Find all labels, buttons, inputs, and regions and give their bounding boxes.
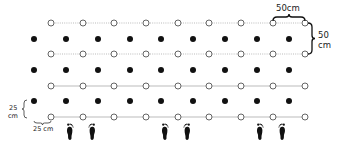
- open-circle-marker: [143, 20, 149, 26]
- open-circle-marker: [206, 20, 212, 26]
- open-circle-marker: [206, 114, 212, 120]
- filled-circle-marker: [254, 98, 260, 104]
- open-circle-marker: [175, 114, 181, 120]
- filled-circle-marker: [222, 36, 228, 42]
- open-circle-marker: [48, 20, 54, 26]
- filled-circle-marker: [31, 36, 37, 42]
- filled-circle-marker: [95, 98, 101, 104]
- top-spacing-label: 50cm: [276, 4, 300, 13]
- filled-circle-marker: [222, 67, 228, 73]
- filled-circle-marker: [286, 98, 292, 104]
- open-circle-marker: [111, 51, 117, 57]
- right-footprint-icon: [183, 123, 190, 140]
- left-footprint-icon: [257, 123, 264, 140]
- filled-circle-marker: [63, 67, 69, 73]
- open-circle-marker: [238, 20, 244, 26]
- filled-circle-marker: [222, 98, 228, 104]
- bottom-spacing-label: 25 cm: [33, 125, 53, 134]
- filled-circle-marker: [127, 67, 133, 73]
- filled-circle-marker: [31, 67, 37, 73]
- open-circle-marker: [80, 114, 86, 120]
- open-circle-marker: [238, 51, 244, 57]
- open-circle-marker: [143, 51, 149, 57]
- filled-circle-marker: [254, 36, 260, 42]
- filled-circle-marker: [95, 67, 101, 73]
- filled-circle-marker: [95, 36, 101, 42]
- open-circle-marker: [238, 83, 244, 89]
- filled-circle-marker: [158, 98, 164, 104]
- left-spacing-label-unit: cm: [8, 112, 18, 121]
- right-spacing-label-value: 50: [318, 31, 329, 40]
- open-circle-marker: [270, 83, 276, 89]
- open-circle-marker: [48, 114, 54, 120]
- filled-circle-marker: [63, 36, 69, 42]
- right-footprint-icon: [278, 123, 285, 140]
- filled-circle-marker: [254, 67, 260, 73]
- open-circle-marker: [111, 20, 117, 26]
- left-footprint-icon: [67, 123, 74, 140]
- filled-circle-marker: [158, 67, 164, 73]
- left-brace: [22, 100, 27, 118]
- filled-circle-marker: [190, 98, 196, 104]
- filled-circle-marker: [127, 36, 133, 42]
- open-circle-marker: [80, 83, 86, 89]
- open-circle-marker: [302, 51, 308, 57]
- filled-circle-marker: [190, 36, 196, 42]
- filled-circle-marker: [158, 36, 164, 42]
- open-circle-marker: [175, 20, 181, 26]
- right-brace: [308, 23, 315, 54]
- open-circle-marker: [206, 83, 212, 89]
- open-circle-marker: [302, 114, 308, 120]
- open-circle-marker: [80, 20, 86, 26]
- right-footprint-icon: [88, 123, 95, 140]
- open-circle-marker: [270, 114, 276, 120]
- open-circle-marker: [143, 83, 149, 89]
- open-circle-marker: [175, 51, 181, 57]
- open-circle-marker: [302, 83, 308, 89]
- top-brace: [273, 14, 305, 21]
- filled-circle-marker: [31, 98, 37, 104]
- open-circle-marker: [48, 51, 54, 57]
- open-circle-marker: [80, 51, 86, 57]
- right-spacing-label-unit: cm: [318, 41, 331, 50]
- planting-layout-diagram: 50cm 50 cm 25 cm 25 cm: [0, 0, 343, 149]
- open-circle-marker: [143, 114, 149, 120]
- open-circle-marker: [238, 114, 244, 120]
- filled-circle-marker: [190, 67, 196, 73]
- open-circle-marker: [111, 114, 117, 120]
- filled-circle-marker: [286, 36, 292, 42]
- left-footprint-icon: [162, 123, 169, 140]
- open-circle-marker: [111, 83, 117, 89]
- filled-circle-marker: [63, 98, 69, 104]
- open-circle-marker: [48, 83, 54, 89]
- filled-circle-marker: [286, 67, 292, 73]
- open-circle-marker: [175, 83, 181, 89]
- open-circle-marker: [206, 51, 212, 57]
- filled-circle-marker: [127, 98, 133, 104]
- open-circle-marker: [270, 51, 276, 57]
